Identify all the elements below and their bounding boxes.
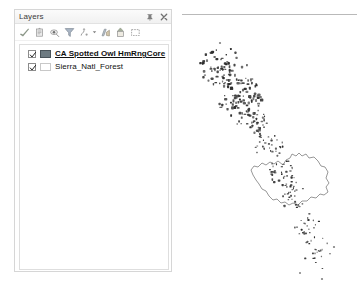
panel-titlebar: Layers (15, 10, 171, 24)
new-group-layer-icon[interactable] (128, 25, 142, 39)
map-canvas[interactable] (182, 15, 357, 287)
list-item[interactable]: Sierra_Natl_Forest (20, 60, 168, 73)
table-of-contents[interactable]: CA Spotted Owl HmRngCore Sierra_Natl_For… (19, 44, 169, 270)
layer-visibility-checkbox[interactable] (28, 63, 36, 71)
owl-home-range-core-features (199, 42, 335, 280)
list-by-source-icon[interactable] (32, 25, 46, 39)
panel-title: Layers (15, 12, 44, 21)
layer-visibility-checkbox[interactable] (28, 50, 36, 58)
layer-symbol-swatch[interactable] (40, 50, 51, 58)
dropdown-arrow-icon[interactable] (92, 25, 97, 39)
titlebar-buttons (146, 10, 168, 23)
list-by-visibility-icon[interactable] (47, 25, 61, 39)
list-item[interactable]: CA Spotted Owl HmRngCore (20, 47, 168, 60)
options-icon[interactable] (77, 25, 91, 39)
list-by-drawing-order-icon[interactable] (17, 25, 31, 39)
layers-toolbar (15, 24, 171, 41)
layer-name-sierra-natl-forest[interactable]: Sierra_Natl_Forest (55, 62, 123, 71)
close-icon[interactable] (160, 13, 168, 21)
map-view[interactable] (182, 0, 357, 287)
move-up-icon[interactable] (113, 25, 127, 39)
layer-symbol-swatch[interactable] (40, 63, 51, 71)
list-by-selection-icon[interactable] (62, 25, 76, 39)
layer-name-owl-core[interactable]: CA Spotted Owl HmRngCore (55, 49, 165, 58)
layers-panel: Layers (14, 9, 172, 272)
auto-hide-pin-icon[interactable] (146, 13, 154, 21)
add-data-icon[interactable] (98, 25, 112, 39)
